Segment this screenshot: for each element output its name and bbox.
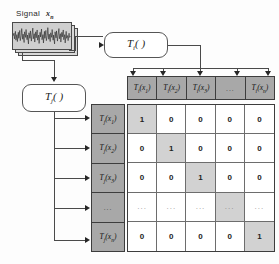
diagram-canvas: Signalxn Ti( ) Tj( )	[0, 0, 279, 264]
signal-label: Signalxn	[16, 9, 54, 20]
matrix-cell-r3-c4: 0	[216, 163, 245, 192]
box-tj-suffix: ( )	[53, 90, 63, 102]
row-branch-1	[54, 118, 87, 119]
signal-waveform-icon	[13, 23, 71, 49]
matrix-cell-r4-c2: ...	[157, 193, 186, 222]
arrow-row-5	[85, 237, 90, 243]
matrix-cell-r5-c1: 0	[128, 222, 157, 251]
arrow-signal-to-tj	[51, 77, 57, 82]
matrix-cell-r2-c1: 0	[128, 134, 157, 163]
signal-branch-line-h	[69, 50, 76, 51]
row-header-cell-1: Tj(x1)	[92, 105, 124, 134]
arrow-row-3	[85, 175, 90, 181]
matrix-cell-r4-c1: ...	[128, 193, 157, 222]
row-header-cell-3: Tj(x3)	[92, 164, 124, 193]
column-bus-line	[133, 68, 269, 69]
ti-to-bus-line-h	[168, 45, 201, 46]
matrix-cell-r3-c5: 0	[245, 163, 274, 192]
process-box-ti[interactable]: Ti( )	[104, 32, 168, 58]
signal-panel-front	[12, 22, 72, 50]
matrix-cell-r2-c2: 1	[157, 134, 186, 163]
arrow-row-4	[85, 205, 90, 211]
matrix-cell-r2-c4: 0	[216, 134, 245, 163]
matrix-column-header: Ti(x1)Ti(x2)Ti(x3)...Ti(xn)	[127, 76, 275, 100]
row-header-cell-2: Tj(x2)	[92, 134, 124, 163]
signal-variable-sub: n	[50, 14, 54, 20]
matrix-cell-r1-c5: 0	[245, 105, 274, 134]
matrix-cell-r5-c5: 1	[245, 222, 274, 251]
process-box-tj[interactable]: Tj( )	[22, 84, 86, 112]
matrix-cell-r2-c5: 0	[245, 134, 274, 163]
matrix-cell-r3-c1: 0	[128, 163, 157, 192]
column-header-cell-5: Ti(xn)	[246, 77, 274, 99]
matrix-cell-r2-c3: 0	[186, 134, 215, 163]
box-tj-label: Tj( )	[45, 90, 63, 105]
arrow-row-2	[85, 145, 90, 151]
column-header-cell-1: Ti(x1)	[128, 77, 157, 99]
identity-matrix-grid: 100000100000100...............00001	[127, 104, 275, 252]
row-branch-3	[54, 178, 87, 179]
column-header-cell-2: Ti(x2)	[157, 77, 186, 99]
row-bus-line	[54, 112, 55, 240]
signal-to-tj-line-h	[22, 60, 54, 61]
row-branch-5	[54, 240, 87, 241]
signal-to-ti-line-v	[75, 36, 76, 50]
signal-variable: xn	[46, 9, 54, 18]
matrix-cell-r1-c3: 0	[186, 105, 215, 134]
matrix-cell-r1-c2: 0	[157, 105, 186, 134]
row-header-cell-5: Tj(xn)	[92, 223, 124, 251]
matrix-cell-r1-c1: 1	[128, 105, 157, 134]
matrix-cell-r4-c3: ...	[186, 193, 215, 222]
matrix-row-header: Tj(x1)Tj(x2)Tj(x3)...Tj(xn)	[91, 104, 125, 252]
column-header-cell-3: Ti(x3)	[187, 77, 216, 99]
box-ti-label: Ti( )	[127, 37, 145, 52]
signal-to-ti-line-h	[75, 36, 103, 37]
matrix-cell-r3-c2: 0	[157, 163, 186, 192]
ti-to-bus-line-v	[200, 45, 201, 68]
matrix-cell-r1-c4: 0	[216, 105, 245, 134]
arrow-row-1	[85, 115, 90, 121]
matrix-cell-r4-c5: ...	[245, 193, 274, 222]
signal-label-text: Signal	[16, 9, 40, 18]
row-branch-4	[54, 208, 87, 209]
signal-to-tj-line-v2	[54, 60, 55, 77]
matrix-cell-r3-c3: 1	[186, 163, 215, 192]
matrix-cell-r5-c4: 0	[216, 222, 245, 251]
matrix-cell-r5-c2: 0	[157, 222, 186, 251]
column-header-cell-4: ...	[216, 77, 245, 99]
row-branch-2	[54, 148, 87, 149]
signal-to-tj-line-v1	[22, 52, 23, 60]
matrix-cell-r5-c3: 0	[186, 222, 215, 251]
matrix-cell-r4-c4: ...	[216, 193, 245, 222]
box-ti-suffix: ( )	[135, 37, 145, 49]
row-header-cell-4: ...	[92, 193, 124, 222]
